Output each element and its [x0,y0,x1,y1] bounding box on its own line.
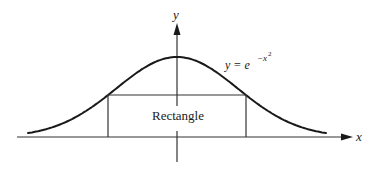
equation-exponent-power: 2 [268,50,272,58]
y-axis-label: y [171,7,179,22]
rectangle-label: Rectangle [152,108,204,123]
x-axis-arrow-icon [341,134,353,141]
equation-exponent: −x [257,53,267,63]
x-axis-label: x [355,129,362,144]
y-axis-arrow-icon [174,23,181,35]
y-axis: y [171,7,181,162]
x-axis: x [17,129,362,144]
curve-equation: y = e −x 2 [224,50,272,72]
equation-base: y = e [224,58,250,72]
gaussian-rectangle-diagram: x y Rectangle y = e −x 2 [0,0,372,178]
